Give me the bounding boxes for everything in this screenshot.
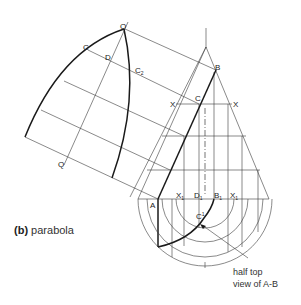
cone-front-view — [138, 28, 269, 268]
label-X-right: X — [233, 100, 239, 109]
half-top-view-note: half top view of A-B — [233, 266, 278, 290]
top-view-section-curve — [158, 199, 214, 247]
note-line-2: view of A-B — [233, 278, 278, 290]
label-C2: C2 — [135, 66, 144, 76]
label-A: A — [150, 201, 156, 210]
label-Q: Q — [58, 160, 64, 169]
parabola-left-branch — [25, 29, 124, 137]
label-B1: B1 — [214, 191, 222, 201]
caption-text: parabola — [31, 224, 74, 236]
label-X1-right: X1 — [230, 191, 238, 201]
semicircle-2 — [162, 199, 248, 242]
point-labels: O C D C2 Q B C X X A X1 D1 B1 X1 C1 — [58, 22, 239, 221]
label-B: B — [215, 63, 220, 72]
cone-left-generator — [138, 47, 206, 199]
label-O: O — [120, 22, 126, 31]
label-C: C — [83, 43, 89, 52]
figure-caption: (b) parabola — [14, 224, 74, 236]
parabola-true-shape — [25, 22, 130, 178]
note-leader-line — [202, 225, 248, 258]
label-X1-left: X1 — [176, 191, 184, 201]
proj-line-2 — [64, 81, 184, 136]
parabola-construction-diagram: O C D C2 Q B C X X A X1 D1 B1 X1 C1 — [0, 0, 301, 305]
label-D: D — [105, 53, 111, 62]
semicircle-x — [176, 199, 234, 228]
caption-prefix: (b) — [14, 224, 28, 236]
label-D1: D1 — [194, 191, 203, 201]
parabola-axis — [64, 22, 128, 165]
projection-lines — [25, 29, 216, 199]
proj-line-B — [125, 29, 216, 70]
label-X-left: X — [170, 100, 176, 109]
proj-line-A — [25, 137, 158, 199]
note-line-1: half top — [233, 266, 278, 278]
label-C-front: C — [195, 94, 201, 103]
